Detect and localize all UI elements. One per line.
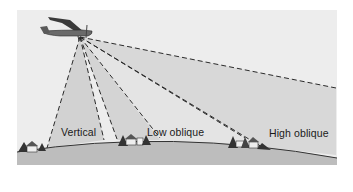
diagram-canvas — [0, 0, 353, 192]
label-low-oblique: Low oblique — [147, 126, 204, 138]
aerial-views-diagram: Vertical Low oblique High oblique — [0, 0, 353, 192]
label-high-oblique: High oblique — [269, 127, 329, 139]
label-vertical: Vertical — [61, 126, 96, 138]
